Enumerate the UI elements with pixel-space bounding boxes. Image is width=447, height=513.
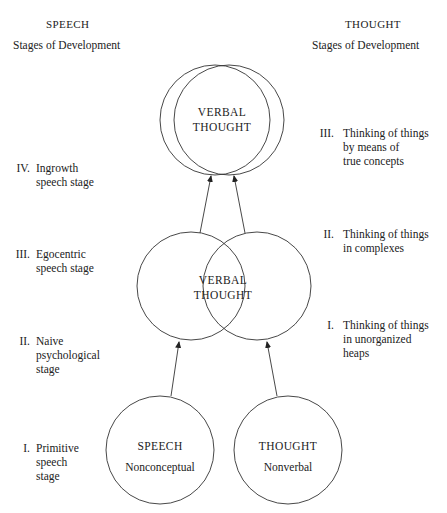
stage-line: speech stage: [36, 261, 94, 275]
stage-line: heaps: [343, 346, 429, 360]
arrow-middle-to-top-left: [200, 176, 211, 233]
arrow-thought-to-middle: [267, 342, 277, 396]
middle-circle-line1: VERBAL: [173, 273, 273, 288]
stage-line: Egocentric: [36, 247, 94, 261]
stage-numeral: II.: [310, 227, 334, 241]
arrow-middle-to-top-right: [234, 176, 245, 233]
stage-line: in unorganized: [343, 332, 429, 346]
stage-numeral: III.: [0, 247, 30, 261]
stage-line: Thinking of things: [343, 318, 429, 332]
stage-line: stage: [36, 469, 79, 483]
speech-circle-subtitle: Nonconceptual: [110, 457, 210, 478]
bottom-speech-circle-label: SPEECH Nonconceptual: [110, 436, 210, 478]
stage-line: true concepts: [343, 154, 429, 168]
top-circle-label: VERBAL THOUGHT: [172, 105, 272, 135]
bottom-thought-circle-label: THOUGHT Nonverbal: [238, 436, 338, 478]
stage-line: stage: [36, 362, 100, 376]
thought-circle-subtitle: Nonverbal: [238, 457, 338, 478]
stage-line: Thinking of things: [343, 227, 429, 241]
stage-line: by means of: [343, 140, 429, 154]
top-circle-line2: THOUGHT: [172, 120, 272, 135]
middle-circle-label: VERBAL THOUGHT: [173, 273, 273, 303]
stage-line: Thinking of things: [343, 126, 429, 140]
top-circle-line1: VERBAL: [172, 105, 272, 120]
stage-line: in complexes: [343, 241, 429, 255]
stage-line: Ingrowth: [36, 161, 94, 175]
stage-line: psychological: [36, 348, 100, 362]
stage-line: speech: [36, 455, 79, 469]
stage-line: Primitive: [36, 441, 79, 455]
stage-numeral: I.: [310, 318, 334, 332]
stage-numeral: II.: [0, 334, 30, 348]
stage-numeral: III.: [310, 126, 334, 140]
stage-line: Naive: [36, 334, 100, 348]
middle-circle-line2: THOUGHT: [173, 288, 273, 303]
stage-line: speech stage: [36, 175, 94, 189]
stage-numeral: IV.: [0, 161, 30, 175]
thought-circle-title: THOUGHT: [238, 436, 338, 457]
speech-circle-title: SPEECH: [110, 436, 210, 457]
stage-numeral: I.: [0, 441, 30, 455]
arrow-speech-to-middle: [171, 342, 179, 396]
